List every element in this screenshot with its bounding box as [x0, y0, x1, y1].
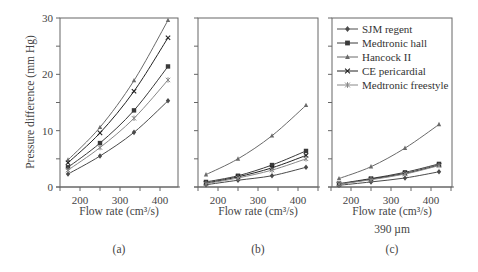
x-axis-title-a: Flow rate (cm³/s) [79, 205, 159, 218]
legend-label: Medtronic freestyle [362, 79, 449, 91]
series-hancock-ii [66, 18, 170, 162]
triangle-marker-icon [437, 122, 441, 126]
x-marker-icon [132, 89, 136, 93]
series-line [68, 66, 168, 167]
series-line [339, 124, 439, 178]
series-ce-pericardial [204, 153, 308, 185]
series-hancock-ii [204, 103, 308, 177]
series-medtronic-freestyle [66, 77, 170, 173]
series-medtronic-hall [204, 149, 308, 184]
series-medtronic-freestyle [337, 163, 441, 187]
asterisk-marker-icon [98, 145, 102, 150]
panel-label-a: (a) [113, 243, 126, 256]
diamond-marker-icon [304, 164, 308, 170]
x-marker-icon [98, 131, 102, 135]
y-tick-label: 0 [48, 181, 54, 193]
y-tick-label: 10 [42, 125, 54, 137]
series-sjm-regent [337, 169, 441, 188]
legend-label: CE pericardial [362, 65, 426, 77]
diamond-marker-icon [98, 153, 102, 159]
square-marker-icon [166, 64, 170, 68]
asterisk-marker-icon [132, 116, 136, 121]
legend-item: CE pericardial [337, 65, 426, 77]
subtitle-c: 390 µm [374, 223, 410, 236]
series-line [68, 20, 168, 160]
square-marker-icon [132, 108, 136, 112]
asterisk-marker-icon [166, 77, 170, 82]
y-tick-label: 30 [42, 12, 54, 24]
diamond-marker-icon [437, 169, 441, 175]
square-marker-icon [98, 141, 102, 145]
legend-label: Medtronic hall [362, 37, 427, 49]
asterisk-marker-icon [66, 167, 70, 172]
series-hancock-ii [337, 122, 441, 180]
panel-label-c: (c) [386, 243, 399, 256]
plot-frame [198, 18, 318, 187]
y-tick-label: 20 [42, 68, 54, 80]
legend: SJM regentMedtronic hallHancock IICE per… [337, 23, 449, 91]
series-line [206, 167, 306, 184]
series-line [206, 151, 306, 182]
series-sjm-regent [66, 98, 170, 177]
panel-b-chart: 200300400 [194, 18, 320, 206]
square-marker-icon [304, 149, 308, 153]
triangle-marker-icon [270, 133, 274, 137]
diamond-marker-icon [345, 26, 350, 32]
legend-item: SJM regent [337, 23, 412, 35]
diamond-marker-icon [132, 130, 136, 136]
x-axis-title-b: Flow rate (cm³/s) [218, 205, 298, 218]
x-marker-icon [166, 36, 170, 40]
diamond-marker-icon [270, 173, 274, 179]
panel-label-b: (b) [251, 243, 265, 256]
panel-a-chart: 0102030200300400 [42, 12, 180, 206]
legend-item: Medtronic freestyle [337, 79, 449, 91]
series-medtronic-hall [66, 64, 170, 169]
triangle-marker-icon [304, 103, 308, 107]
legend-item: Hancock II [337, 51, 412, 63]
pressure-flow-figure: Pressure difference (mm Hg) 010203020030… [0, 0, 478, 272]
y-axis-title: Pressure difference (mm Hg) [24, 35, 37, 169]
legend-label: SJM regent [362, 23, 412, 35]
x-axis-title-c: Flow rate (cm³/s) [352, 205, 432, 218]
series-ce-pericardial [66, 36, 170, 165]
square-marker-icon [345, 41, 350, 46]
legend-item: Medtronic hall [337, 37, 427, 49]
legend-label: Hancock II [362, 51, 412, 63]
